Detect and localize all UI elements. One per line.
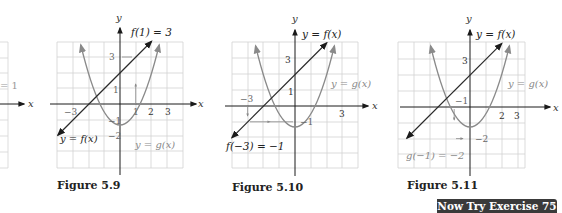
svg-text:3: 3 xyxy=(165,107,171,117)
x-axis-label: x xyxy=(553,102,559,113)
parabola-label: y = g(x) xyxy=(330,78,371,89)
y-axis-label: y xyxy=(115,12,122,23)
figure-5-9: x y f(1) = 3 y = f(x) y = g(x) −3 1 2 3 … xyxy=(50,12,204,175)
svg-text:3: 3 xyxy=(285,55,291,65)
svg-text:3: 3 xyxy=(339,109,345,119)
now-try-exercise-badge: Now Try Exercise 75 xyxy=(437,199,557,213)
svg-text:3: 3 xyxy=(462,56,468,66)
svg-text:−2: −2 xyxy=(475,134,488,144)
svg-text:2: 2 xyxy=(499,111,505,121)
svg-text:−1: −1 xyxy=(455,96,468,106)
figure-caption: Figure 5.9 xyxy=(57,179,120,192)
svg-text:−3: −3 xyxy=(64,107,78,117)
figures-canvas: = 1 x x y f(1) = 3 y = f(x) y = g(x) −3 xyxy=(0,0,562,213)
x-axis-label: x xyxy=(198,98,204,109)
annotation: f(1) = 3 xyxy=(130,26,172,38)
figure-5-11: x y y = f(x) g(−1) = −2 y = g(x) −1 2 3 … xyxy=(398,13,559,176)
tick-labels: −1 2 3 3 −2 xyxy=(455,56,520,144)
svg-text:1: 1 xyxy=(133,107,139,117)
figure-caption: Figure 5.10 xyxy=(232,181,303,194)
annotation: g(−1) = −2 xyxy=(406,150,464,161)
figure-caption: Figure 5.11 xyxy=(407,179,478,192)
x-axis-label: x xyxy=(28,98,34,109)
x-axis-label: x xyxy=(372,100,378,111)
svg-text:−1: −1 xyxy=(300,117,313,127)
svg-text:2: 2 xyxy=(148,107,154,117)
parabola-label: y = g(x) xyxy=(134,139,175,150)
figure-5-10: x y y = f(x) f(−3) = −1 y = g(x) −3 3 3 … xyxy=(225,13,378,176)
svg-text:1: 1 xyxy=(288,87,294,97)
tick-labels: −3 1 2 3 3 1 −1 −2 xyxy=(64,52,171,141)
y-axis-label: y xyxy=(291,13,298,24)
svg-text:−1: −1 xyxy=(108,116,121,126)
line-label: y = f(x) xyxy=(475,28,515,40)
svg-text:1: 1 xyxy=(113,85,119,95)
parabola-label: y = g(x) xyxy=(507,78,548,89)
line-label: y = f(x) xyxy=(59,133,98,144)
annotation: f(−3) = −1 xyxy=(225,140,285,152)
partial-figure-left: = 1 x xyxy=(0,42,34,168)
partial-label: = 1 xyxy=(0,80,18,91)
svg-text:3: 3 xyxy=(514,111,520,121)
svg-text:−2: −2 xyxy=(108,131,121,141)
line-label: y = f(x) xyxy=(301,28,341,40)
svg-text:−3: −3 xyxy=(240,94,254,104)
y-axis-label: y xyxy=(465,13,472,24)
svg-text:3: 3 xyxy=(109,52,115,62)
